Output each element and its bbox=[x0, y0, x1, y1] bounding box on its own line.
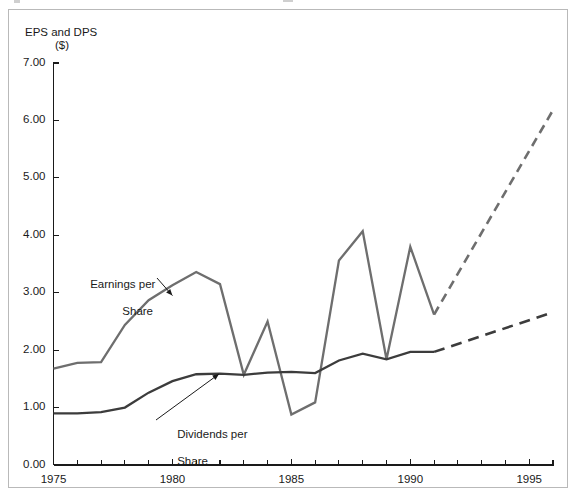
x-axis-tick-label: 1995 bbox=[505, 473, 553, 485]
y-axis-tick-label: 1.00 bbox=[6, 400, 46, 412]
y-axis-tick-label: 3.00 bbox=[6, 285, 46, 297]
eps-annotation-line2: Share bbox=[122, 305, 153, 317]
y-axis-title-line2: ($) bbox=[25, 39, 99, 53]
line-chart-svg bbox=[0, 0, 577, 497]
chart-page: EPS and DPS ($) 0.001.002.003.004.005.00… bbox=[0, 0, 577, 497]
y-axis-tick-label: 2.00 bbox=[6, 343, 46, 355]
series-line bbox=[54, 352, 435, 413]
x-axis-tick-label: 1975 bbox=[30, 473, 78, 485]
y-axis-tick-label: 6.00 bbox=[6, 113, 46, 125]
eps-annotation-line1: Earnings per bbox=[90, 278, 155, 290]
y-axis-tick-label: 7.00 bbox=[6, 56, 46, 68]
y-axis-tick-label: 0.00 bbox=[6, 458, 46, 470]
chart-plot-area: EPS and DPS ($) 0.001.002.003.004.005.00… bbox=[0, 0, 577, 497]
eps-series-annotation: Earnings per Share bbox=[71, 264, 153, 332]
dps-annotation-line2: Share bbox=[177, 455, 208, 467]
dps-series-annotation: Dividends per Share bbox=[158, 414, 253, 482]
x-axis-tick-label: 1985 bbox=[267, 473, 315, 485]
dps-annotation-line1: Dividends per bbox=[177, 428, 247, 440]
data-series-group bbox=[54, 110, 554, 414]
y-axis-tick-label: 4.00 bbox=[6, 228, 46, 240]
annotation-leader-lines bbox=[156, 278, 219, 420]
series-line bbox=[434, 312, 553, 352]
y-axis-tick-label: 5.00 bbox=[6, 170, 46, 182]
series-line bbox=[434, 110, 553, 314]
y-axis-title-line1: EPS and DPS bbox=[25, 26, 97, 40]
x-axis-tick-label: 1990 bbox=[386, 473, 434, 485]
